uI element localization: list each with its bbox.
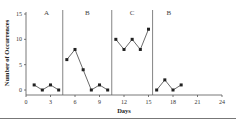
x-tick-label: 3	[49, 99, 52, 105]
phase-2-series: B	[65, 9, 109, 92]
data-point	[90, 89, 93, 92]
single-case-design-chart: 05101503691215182124 ABCB Number of Occu…	[0, 0, 236, 120]
x-tick-label: 15	[146, 99, 152, 105]
data-point	[114, 38, 117, 41]
phase-3-series: C	[114, 9, 150, 51]
data-point	[82, 68, 85, 71]
data-point	[65, 58, 68, 61]
y-tick-label: 0	[19, 87, 22, 93]
x-axis-label: Days	[117, 107, 131, 114]
data-point	[98, 83, 101, 86]
phase-4-series: B	[155, 9, 183, 92]
x-tick-label: 6	[74, 99, 77, 105]
phase-label: C	[130, 9, 135, 17]
x-tick-label: 24	[219, 99, 225, 105]
data-point	[139, 48, 142, 51]
data-point	[41, 89, 44, 92]
x-tick-label: 9	[98, 99, 101, 105]
x-tick-label: 18	[170, 99, 176, 105]
x-tick-label: 21	[195, 99, 201, 105]
data-line	[34, 85, 59, 90]
data-point	[131, 38, 134, 41]
y-tick-label: 10	[16, 36, 22, 42]
axes	[26, 12, 222, 95]
data-line	[157, 80, 182, 90]
data-point	[33, 83, 36, 86]
data-point	[163, 78, 166, 81]
phase-label: A	[44, 9, 49, 17]
data-point	[155, 89, 158, 92]
axis-ticks: 05101503691215182124	[16, 11, 225, 105]
data-point	[172, 89, 175, 92]
data-point	[74, 48, 77, 51]
data-line	[67, 49, 108, 90]
data-point	[49, 83, 52, 86]
data-point	[147, 28, 150, 31]
data-point	[180, 83, 183, 86]
y-tick-label: 5	[19, 62, 22, 68]
data-point	[57, 89, 60, 92]
data-point	[123, 48, 126, 51]
phase-label: B	[167, 9, 172, 17]
x-tick-label: 12	[121, 99, 127, 105]
phase-label: B	[85, 9, 90, 17]
y-tick-label: 15	[16, 11, 22, 17]
data-series: ABCB	[33, 9, 183, 92]
y-axis-label: Number of Occurrences	[3, 19, 10, 86]
phase-1-series: A	[33, 9, 61, 92]
data-point	[106, 89, 109, 92]
x-tick-label: 0	[25, 99, 28, 105]
